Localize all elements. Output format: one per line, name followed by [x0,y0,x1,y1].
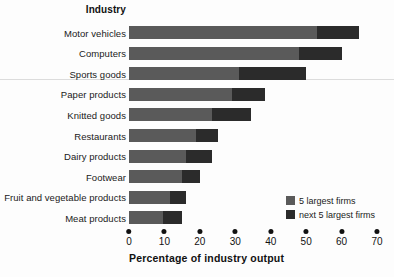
stacked-bar [129,47,342,60]
category-label: Motor vehicles [64,27,126,38]
bar-segment-next-five-largest [196,129,217,142]
bar-segment-five-largest [129,26,317,39]
x-axis-title: Percentage of industry output [129,252,284,264]
bar-segment-five-largest [129,129,196,142]
bar-segment-next-five-largest [317,26,360,39]
bar-segment-five-largest [129,67,239,80]
stacked-bar [129,88,265,101]
legend-swatch-icon [286,196,295,205]
tick-marker-icon [375,229,380,234]
bar-segment-five-largest [129,47,299,60]
tick-label: 20 [194,236,205,247]
tick-marker-icon [233,229,238,234]
legend-next-five-largest: next 5 largest firms [286,208,375,221]
category-label: Knitted goods [67,109,126,120]
chart-row: Restaurants [129,129,377,142]
stacked-bar [129,170,200,183]
bar-segment-five-largest [129,150,186,163]
tick-label: 10 [159,236,170,247]
category-label: Sports goods [69,68,126,79]
stacked-bar [129,67,306,80]
stacked-bar [129,150,212,163]
chart-row: Sports goods [129,67,377,80]
tick-label: 40 [265,236,276,247]
tick-marker-icon [197,229,202,234]
bar-segment-five-largest [129,211,163,224]
tick-marker-icon [162,229,167,234]
stacked-bar [129,26,359,39]
tick-label: 60 [336,236,347,247]
bar-segment-five-largest [129,108,212,121]
tick-marker-icon [127,229,132,234]
x-axis-tick: 20 [194,229,205,247]
tick-marker-icon [304,229,309,234]
tick-marker-icon [268,229,273,234]
stacked-bar [129,129,218,142]
category-label: Paper products [61,89,126,100]
tick-label: 70 [371,236,382,247]
category-label: Footwear [86,171,126,182]
bar-segment-next-five-largest [170,191,186,204]
legend-five-largest: 5 largest firms [286,194,375,207]
bar-segment-five-largest [129,88,232,101]
chart-row: Paper products [129,88,377,101]
chart-row: Dairy products [129,150,377,163]
x-axis-tick: 70 [371,229,382,247]
tick-label: 30 [230,236,241,247]
x-axis-tick: 0 [126,229,132,247]
chart-row: Motor vehicles [129,26,377,39]
stacked-bar [129,191,186,204]
bar-segment-next-five-largest [299,47,342,60]
bar-segment-next-five-largest [232,88,266,101]
chart-legend: 5 largest firmsnext 5 largest firms [286,194,375,222]
x-axis-tick: 40 [265,229,276,247]
tick-label: 0 [126,236,132,247]
legend-label: next 5 largest firms [299,210,375,220]
x-axis-tick: 10 [159,229,170,247]
bar-segment-five-largest [129,170,182,183]
category-column-title: Industry [0,4,126,15]
bar-segment-next-five-largest [163,211,182,224]
x-axis-tick: 60 [336,229,347,247]
tick-marker-icon [339,229,344,234]
bar-segment-next-five-largest [212,108,251,121]
legend-label: 5 largest firms [299,196,356,206]
category-label: Fruit and vegetable products [4,192,126,203]
bar-segment-next-five-largest [186,150,213,163]
bar-segment-next-five-largest [239,67,306,80]
category-label: Restaurants [74,130,126,141]
stacked-bar [129,108,251,121]
category-label: Dairy products [64,151,126,162]
bar-segment-next-five-largest [182,170,200,183]
stacked-bar [129,211,182,224]
tick-label: 50 [301,236,312,247]
chart-row: Footwear [129,170,377,183]
category-label: Computers [79,48,126,59]
industry-concentration-chart: Industry Motor vehiclesComputersSports g… [0,0,394,277]
bar-segment-five-largest [129,191,170,204]
legend-swatch-icon [286,210,295,219]
chart-row: Knitted goods [129,108,377,121]
x-axis-tick: 30 [230,229,241,247]
category-label: Meat products [65,212,126,223]
chart-row: Computers [129,47,377,60]
x-axis-tick: 50 [301,229,312,247]
